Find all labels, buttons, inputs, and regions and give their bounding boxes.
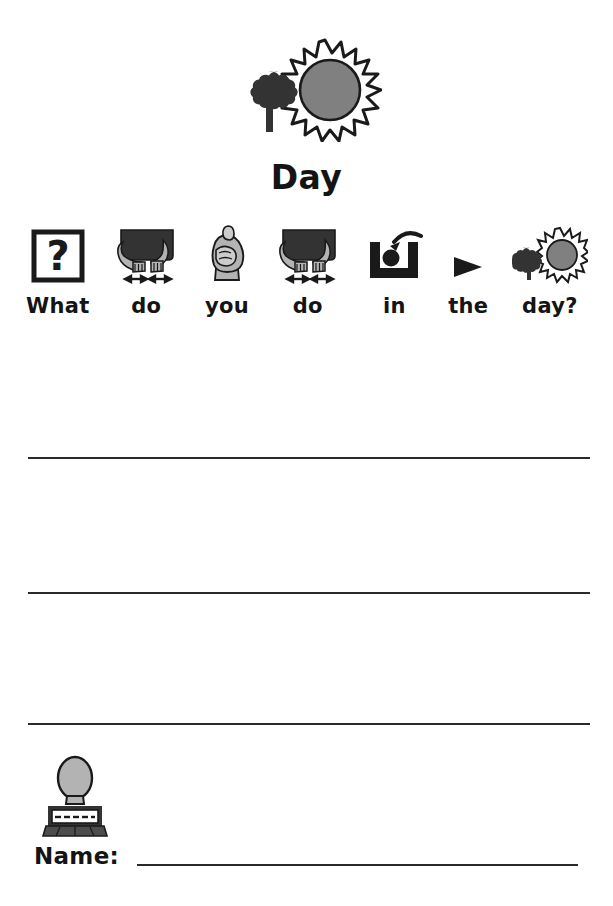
answer-line-2[interactable] [28, 592, 590, 594]
ball-in-container-icon [364, 222, 424, 284]
symbol-sentence-strip: ? What [26, 222, 588, 317]
symbol-word-do-1: do [111, 222, 181, 317]
sentence-word: do [293, 296, 323, 317]
question-mark-box-icon: ? [31, 222, 85, 284]
pointing-fist-icon [203, 222, 251, 284]
sun-icon [536, 228, 588, 282]
symbol-word-do-2: do [273, 222, 343, 317]
symbol-word-day: day? [512, 222, 588, 317]
sentence-word: the [448, 296, 488, 317]
answer-line-3[interactable] [28, 723, 590, 725]
sentence-word: you [205, 296, 249, 317]
tree-and-sun-icon [512, 222, 588, 284]
tree-and-sun-icon [232, 32, 382, 142]
symbol-word-what: ? What [26, 222, 90, 317]
page-title: Day [0, 158, 613, 197]
sentence-word: What [26, 296, 90, 317]
symbol-word-the: the [446, 222, 490, 317]
symbol-word-you: you [203, 222, 251, 317]
worksheet-page: Day ? What [0, 0, 613, 906]
sentence-word: day? [522, 296, 578, 317]
answer-line-1[interactable] [28, 457, 590, 459]
two-hands-doing-icon [273, 222, 343, 284]
name-label: Name: [34, 845, 119, 868]
sentence-word: do [131, 296, 161, 317]
sentence-word: in [383, 296, 406, 317]
symbol-word-in: in [364, 222, 424, 317]
two-hands-doing-icon [111, 222, 181, 284]
name-input-line[interactable] [137, 864, 578, 866]
right-triangle-pointer-icon [446, 222, 490, 284]
svg-text:?: ? [46, 233, 69, 279]
tree-icon [250, 72, 297, 132]
person-nameplate-icon [36, 752, 114, 838]
header-illustration [0, 32, 613, 142]
